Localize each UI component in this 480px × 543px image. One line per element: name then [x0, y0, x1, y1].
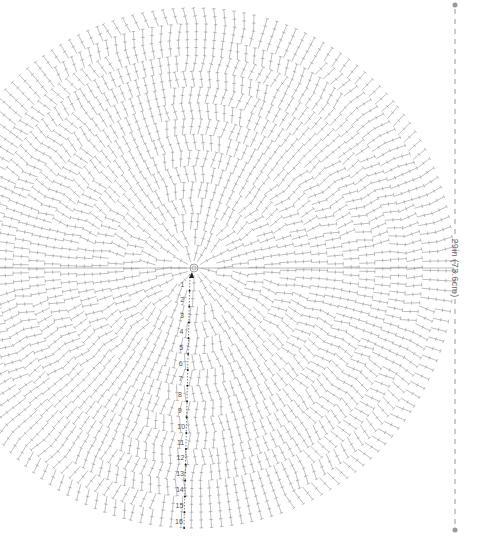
row-number: 11 [177, 439, 184, 446]
row-number: 6 [179, 360, 183, 367]
row-number: 2 [180, 296, 184, 303]
row-number: 14 [176, 486, 184, 493]
row-number: 9 [178, 407, 182, 414]
crochet-chart: 12345678910111213141516 [0, 0, 480, 543]
row-number: 8 [178, 391, 182, 398]
row-number: 3 [180, 312, 184, 319]
row-number: 16 [175, 518, 183, 525]
row-number: 13 [176, 470, 184, 477]
dimension-endpoint-bottom [453, 528, 458, 533]
row-number: 1 [181, 281, 185, 288]
row-number: 15 [176, 502, 184, 509]
row-number: 4 [180, 328, 184, 335]
row-number: 5 [179, 344, 183, 351]
dimension-endpoint-top [453, 3, 458, 8]
row-number: 7 [178, 375, 182, 382]
row-number: 10 [177, 423, 185, 430]
row-number: 12 [177, 454, 185, 461]
diameter-label: 29in (73.6cm) [450, 239, 460, 298]
